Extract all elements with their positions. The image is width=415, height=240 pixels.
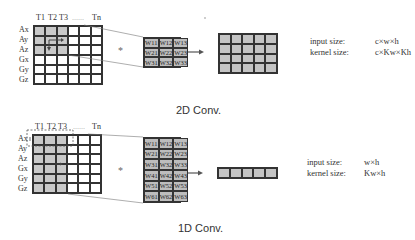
kernel-cell: W42 xyxy=(159,170,174,181)
kernel-1d: W11 W12 W13 W21 W22 W23 W31 W32 W33 W41 … xyxy=(143,137,181,203)
output-cell xyxy=(253,168,265,178)
kernel-cell: W13 xyxy=(173,138,188,149)
kernel-cell: W53 xyxy=(173,181,188,192)
convolution-operator: * xyxy=(118,165,123,176)
kernel-cell: W22 xyxy=(159,149,174,160)
kernel-cell: W32 xyxy=(159,159,174,170)
output-cell xyxy=(218,168,230,178)
output-cell xyxy=(230,168,242,178)
kernel-size-label: kernel size: xyxy=(307,168,364,179)
output-grid-1d xyxy=(217,167,278,179)
kernel-cell: W31 xyxy=(144,159,159,170)
kernel-cell: W51 xyxy=(144,181,159,192)
kernel-size-value: Kw×h xyxy=(364,168,385,178)
output-cell xyxy=(242,168,254,178)
input-size-label: input size: xyxy=(307,157,364,168)
size-info-1d: input size:w×h kernel size:Kw×h xyxy=(307,157,385,179)
input-size-value: w×h xyxy=(364,157,379,167)
caption-1d-conv: 1D Conv. xyxy=(178,222,223,234)
kernel-cell: W11 xyxy=(144,138,159,149)
output-cell xyxy=(265,168,277,178)
kernel-cell: W21 xyxy=(144,149,159,160)
kernel-cell: W33 xyxy=(173,159,188,170)
kernel-cell: W63 xyxy=(173,191,188,202)
kernel-cell: W41 xyxy=(144,170,159,181)
kernel-cell: W12 xyxy=(159,138,174,149)
kernel-cell: W23 xyxy=(173,149,188,160)
kernel-cell: W61 xyxy=(144,191,159,202)
kernel-cell: W52 xyxy=(159,181,174,192)
kernel-cell: W43 xyxy=(173,170,188,181)
connector-lines-1d xyxy=(0,0,415,240)
kernel-cell: W62 xyxy=(159,191,174,202)
